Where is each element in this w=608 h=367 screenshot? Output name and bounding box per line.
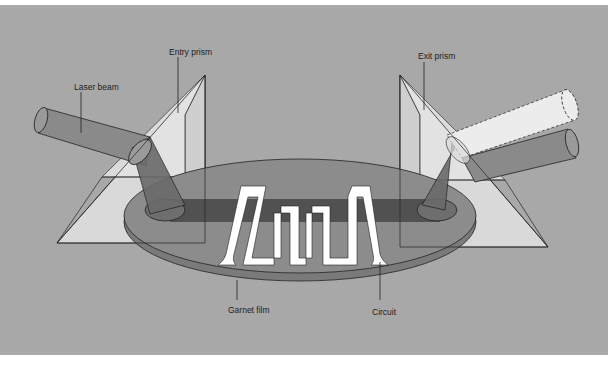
label-garnet-film: Garnet film	[228, 305, 270, 315]
label-exit-prism: Exit prism	[418, 51, 455, 61]
magneto-optic-device-diagram: Laser beam Entry prism Exit prism Garnet…	[0, 0, 608, 367]
label-entry-prism: Entry prism	[169, 47, 212, 57]
label-laser-beam: Laser beam	[74, 82, 119, 92]
label-circuit: Circuit	[372, 307, 397, 317]
